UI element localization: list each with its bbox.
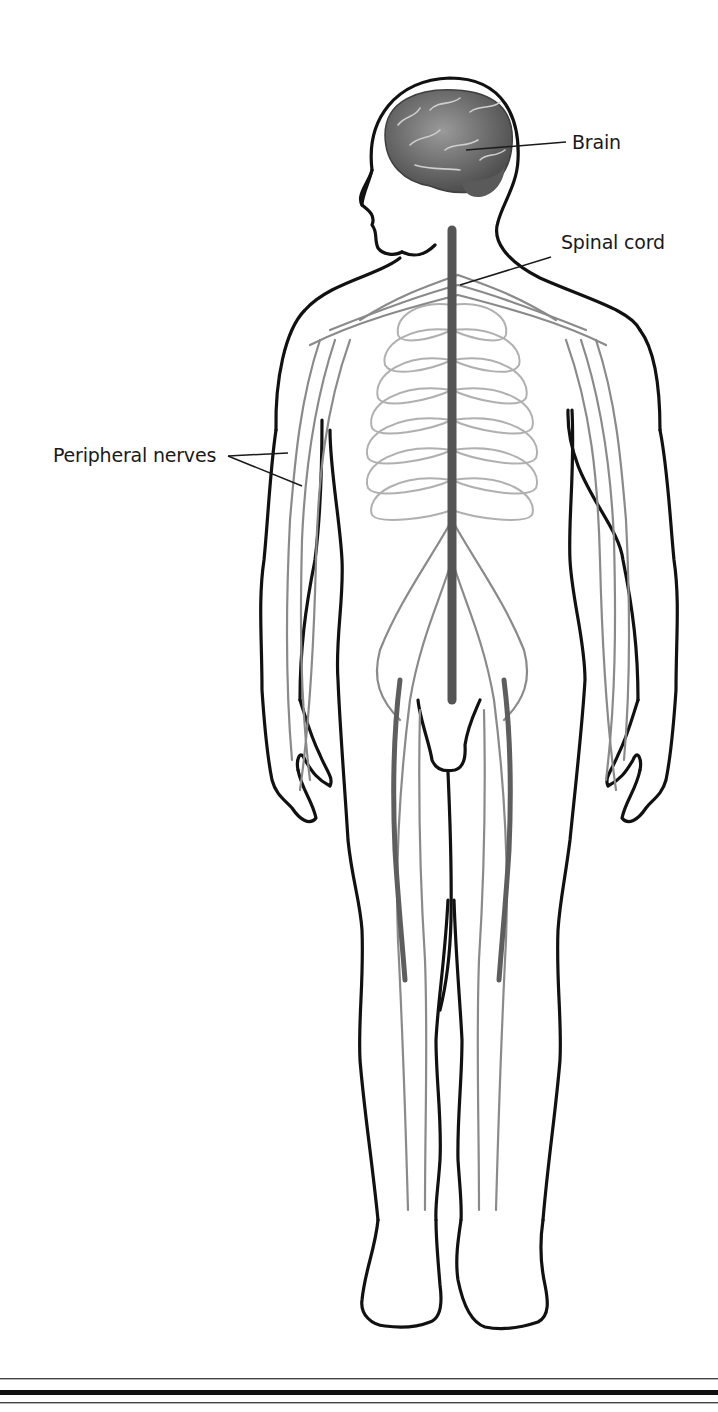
label-spinal-cord: Spinal cord (561, 231, 665, 253)
bottom-rules (0, 1378, 718, 1403)
peripheral-nerves (287, 275, 629, 1210)
nervous-system-diagram (0, 0, 718, 1412)
brain-shape (385, 90, 512, 197)
body-outline (261, 78, 678, 1328)
label-brain: Brain (572, 131, 621, 153)
label-peripheral-nerves: Peripheral nerves (53, 444, 216, 466)
